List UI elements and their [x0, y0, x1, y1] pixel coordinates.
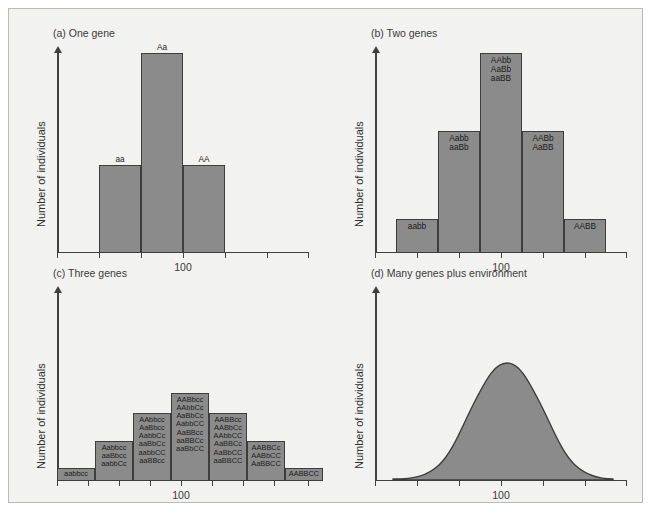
panel-c-plot: 100 aabbcc Aabbcc aaBbcc aabbCc AAbbcc A…	[57, 293, 309, 481]
bar-label-Aa: Aa	[142, 43, 182, 52]
bar-aabbcc: aabbcc	[57, 468, 95, 481]
panel-c-y-axis	[57, 293, 59, 481]
bar-c-group5: AABBcc AABbCc AAbbCC AaBBCc AaBbCC aaBBC…	[209, 413, 247, 481]
bar-label-c-group4: AABbcc AAbbCc AaBbCc AabbCC AaBBcc aaBBC…	[172, 396, 208, 454]
panel-b-y-axis-arrow	[372, 46, 380, 53]
bar-label-aabb: aabb	[397, 222, 437, 231]
bar-aabb: aabb	[396, 219, 438, 253]
panel-d-x-value: 100	[492, 489, 510, 501]
panel-c-y-axis-arrow	[54, 286, 62, 293]
bell-curve-path	[393, 363, 613, 480]
bar-AABb-AaBB: AABb AaBB	[522, 131, 564, 253]
bar-Aa: Aa	[141, 53, 183, 253]
panel-d-plot: 100	[375, 293, 627, 481]
bar-AABBCC: AABBCC	[285, 468, 323, 481]
panel-c-title: (c) Three genes	[53, 267, 127, 279]
bar-Aabb-aaBb: Aabb aaBb	[438, 131, 480, 253]
panel-b-y-axis	[375, 53, 377, 253]
bar-c-group3: AAbbcc AaBbcc AabbCc aaBbCc aabbCC aaBBc…	[133, 413, 171, 481]
bar-label-Aabb-aaBb: Aabb aaBb	[439, 134, 479, 152]
bar-label-AABBCC: AABBCC	[286, 470, 322, 478]
panel-c-x-value: 100	[172, 489, 190, 501]
bar-label-c-group6: AABBCc AABbCC AaBBCC	[248, 444, 284, 469]
panel-three-genes: (c) Three genes Number of individuals 10…	[9, 257, 327, 504]
panel-b-y-axis-label: Number of individuals	[353, 121, 365, 227]
normal-distribution-curve	[375, 293, 627, 481]
panel-two-genes: (b) Two genes Number of individuals 100 …	[327, 9, 644, 257]
figure-frame: (a) One gene Number of individuals 100 a…	[8, 8, 643, 503]
bar-label-aa: aa	[100, 155, 140, 164]
bar-c-group2: Aabbcc aaBbcc aabbCc	[95, 441, 133, 481]
bar-label-aabbcc: aabbcc	[58, 470, 94, 478]
bar-c-group6: AABBCc AABbCC AaBBCC	[247, 441, 285, 481]
panel-a-y-axis	[57, 53, 59, 253]
bar-c-group4: AABbcc AAbbCc AaBbCc AabbCC AaBBcc aaBBC…	[171, 393, 209, 481]
bar-aa: aa	[99, 165, 141, 253]
bar-label-AABB: AABB	[565, 222, 605, 231]
panel-a-title: (a) One gene	[53, 27, 115, 39]
panel-c-y-axis-label: Number of individuals	[35, 363, 47, 469]
panel-a-y-axis-label: Number of individuals	[35, 121, 47, 227]
bar-label-c-group3: AAbbcc AaBbcc AabbCc aaBbCc aabbCC aaBBc…	[134, 416, 170, 466]
panel-d-y-axis-arrow	[372, 286, 380, 293]
panel-one-gene: (a) One gene Number of individuals 100 a…	[9, 9, 327, 257]
bar-AABB: AABB	[564, 219, 606, 253]
bar-label-AABb-AaBB: AABb AaBB	[523, 134, 563, 152]
panel-d-y-axis-label: Number of individuals	[353, 363, 365, 469]
bar-label-c-group2: Aabbcc aaBbcc aabbCc	[96, 444, 132, 469]
bar-label-AAbb-AaBb-aaBB: AAbb AaBb aaBB	[481, 56, 521, 84]
bar-AAbb-AaBb-aaBB: AAbb AaBb aaBB	[480, 53, 522, 253]
panel-b-plot: 100 aabb Aabb aaBb AAbb AaBb aaBB AAB	[375, 53, 627, 253]
panel-d-title: (d) Many genes plus environment	[371, 267, 527, 279]
panel-many-genes: (d) Many genes plus environment Number o…	[327, 257, 644, 504]
panel-b-title: (b) Two genes	[371, 27, 437, 39]
panel-a-plot: 100 aa Aa AA	[57, 53, 309, 253]
bar-label-AA: AA	[184, 155, 224, 164]
bar-label-c-group5: AABBcc AABbCc AAbbCC AaBBCc AaBbCC aaBBC…	[210, 416, 246, 466]
panel-a-y-axis-arrow	[54, 46, 62, 53]
bar-AA: AA	[183, 165, 225, 253]
